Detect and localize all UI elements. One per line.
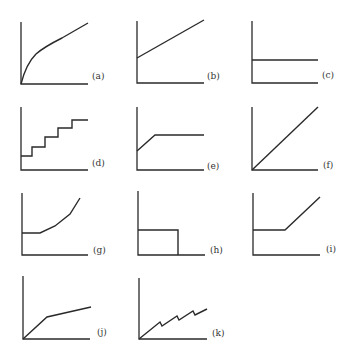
graph-panel-i: (i)	[253, 193, 336, 255]
panel-label: (f)	[323, 160, 333, 170]
axes	[252, 21, 318, 83]
graph-curve	[252, 107, 318, 170]
axes	[137, 107, 204, 170]
graph-grid: (a)(b)(c)(d)(e)(f)(g)(h)(i)(j)(k)	[0, 0, 354, 359]
graph-panel-g: (g)	[22, 193, 106, 255]
panel-label: (e)	[207, 161, 219, 171]
graph-panel-e: (e)	[137, 107, 219, 171]
axes	[253, 193, 320, 255]
axes	[21, 107, 88, 170]
graph-panel-h: (h)	[138, 191, 223, 255]
panel-label: (k)	[212, 328, 224, 338]
graph-panel-c: (c)	[252, 21, 334, 83]
panel-label: (d)	[92, 158, 105, 168]
graph-curve	[21, 120, 88, 156]
graph-panel-j: (j)	[23, 276, 107, 339]
panel-label: (b)	[207, 71, 220, 81]
panel-label: (j)	[97, 327, 107, 337]
graph-panel-a: (a)	[21, 22, 104, 84]
panel-label: (i)	[326, 244, 336, 254]
graph-curve	[22, 198, 80, 233]
panel-label: (a)	[92, 71, 104, 81]
graph-curve	[253, 197, 320, 230]
graph-curve	[23, 307, 91, 339]
axes	[138, 191, 205, 255]
panel-label: (g)	[93, 245, 106, 255]
graph-panel-k: (k)	[139, 278, 224, 339]
graph-figure: (a)(b)(c)(d)(e)(f)(g)(h)(i)(j)(k)	[0, 0, 354, 359]
graph-curve	[137, 20, 204, 58]
graph-curve	[139, 309, 207, 339]
graph-curve	[138, 230, 178, 255]
graph-curve	[21, 23, 88, 84]
panel-label: (c)	[322, 70, 334, 80]
graph-panel-d: (d)	[21, 107, 105, 170]
panel-label: (h)	[210, 245, 223, 255]
axes	[21, 22, 88, 84]
graph-panel-f: (f)	[252, 107, 333, 170]
graph-curve	[137, 135, 204, 151]
graph-panel-b: (b)	[137, 20, 220, 83]
